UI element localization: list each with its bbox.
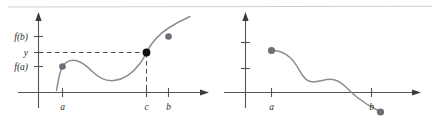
right-point-a bbox=[268, 47, 275, 54]
left-y-label-y: y bbox=[23, 48, 29, 58]
left-y-label-fa: f(a) bbox=[14, 62, 28, 73]
right-x-label-a: a bbox=[269, 102, 274, 112]
left-point-a bbox=[59, 63, 66, 70]
right-point-b bbox=[377, 108, 384, 115]
intermediate-value-theorem-figure: f(b) y f(a) a c b bbox=[0, 0, 436, 126]
left-point-c bbox=[143, 49, 151, 57]
left-y-label-fb: f(b) bbox=[14, 32, 28, 43]
left-x-label-a: a bbox=[60, 102, 65, 112]
right-x-label-b: b bbox=[369, 102, 374, 112]
left-x-label-b: b bbox=[166, 102, 171, 112]
left-point-b bbox=[165, 33, 172, 40]
